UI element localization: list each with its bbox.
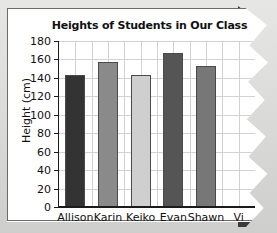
x-tick-label-shawn: Shawn xyxy=(188,211,225,222)
bar-karin xyxy=(98,62,118,207)
bar-evan xyxy=(163,53,183,207)
x-axis-tick-labels: AllisonKarinKeikoEvanShawnVi xyxy=(59,211,264,222)
chart-title: Heights of Students in Our Class xyxy=(47,19,252,32)
y-tick-label: 100 xyxy=(30,108,51,121)
y-tick-label: 40 xyxy=(37,164,51,177)
x-tick-label-allison: Allison xyxy=(57,211,93,222)
y-tick-label: 140 xyxy=(30,71,51,84)
y-tick-label: 60 xyxy=(37,145,51,158)
bar-series xyxy=(59,41,255,207)
x-tick-label-karin: Karin xyxy=(94,211,122,222)
chart-content-clip: Heights of Students in Our Class Height … xyxy=(7,8,269,222)
chart-card: Heights of Students in Our Class Height … xyxy=(7,8,269,222)
plot-area: 020406080100120140160180 xyxy=(59,41,255,207)
y-tick-label: 180 xyxy=(30,35,51,48)
x-axis-line xyxy=(58,206,255,208)
y-tick-label: 160 xyxy=(30,53,51,66)
figure-page: Heights of Students in Our Class Height … xyxy=(0,0,277,233)
x-tick-label-evan: Evan xyxy=(160,211,187,222)
bar-shawn xyxy=(196,66,216,207)
y-tick-label: 0 xyxy=(44,201,51,214)
x-tick-label-vi: Vi xyxy=(233,211,243,222)
x-tick-label-keiko: Keiko xyxy=(126,211,155,222)
bar-allison xyxy=(65,75,85,207)
y-tick-label: 120 xyxy=(30,90,51,103)
y-tick-label: 80 xyxy=(37,127,51,140)
y-tick-label: 20 xyxy=(37,182,51,195)
bar-keiko xyxy=(131,75,151,207)
